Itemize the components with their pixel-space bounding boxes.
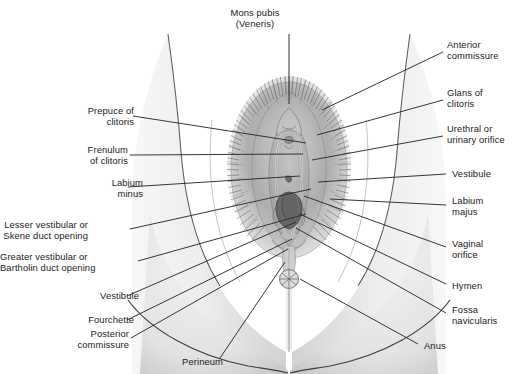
label-labium-minus: Labium minus bbox=[0, 178, 143, 199]
label-lesser-vestibular-skene: Lesser vestibular or Skene duct opening bbox=[0, 220, 88, 241]
label-fossa-navicularis: Fossa navicularis bbox=[452, 305, 497, 326]
label-vestibule-right: Vestibule bbox=[452, 169, 491, 180]
label-vaginal-orifice: Vaginal orifice bbox=[452, 239, 483, 260]
label-prepuce-of-clitoris: Prepuce of clitoris bbox=[0, 106, 134, 127]
label-frenulum-of-clitoris: Frenulum of clitoris bbox=[0, 145, 128, 166]
anus bbox=[280, 270, 299, 353]
label-anterior-commissure: Anterior commissure bbox=[447, 40, 499, 61]
label-perineum: Perineum bbox=[0, 357, 223, 368]
label-labium-majus: Labium majus bbox=[452, 196, 483, 217]
figure-canvas: Mons pubis (Veneris)Prepuce of clitorisF… bbox=[0, 0, 517, 374]
label-posterior-commissure: Posterior commissure bbox=[0, 329, 129, 350]
label-glans-of-clitoris: Glans of clitoris bbox=[447, 88, 483, 109]
label-greater-vestibular-bartholin: Greater vestibular or Bartholin duct ope… bbox=[0, 252, 82, 273]
label-anus: Anus bbox=[424, 341, 446, 352]
label-mons-pubis: Mons pubis (Veneris) bbox=[195, 8, 315, 29]
label-hymen: Hymen bbox=[452, 281, 482, 292]
label-urethral-or-urinary-orifice: Urethral or urinary orifice bbox=[447, 124, 505, 145]
label-fourchette: Fourchette bbox=[0, 315, 134, 326]
label-vestibule-left: Vestibule bbox=[0, 291, 139, 302]
